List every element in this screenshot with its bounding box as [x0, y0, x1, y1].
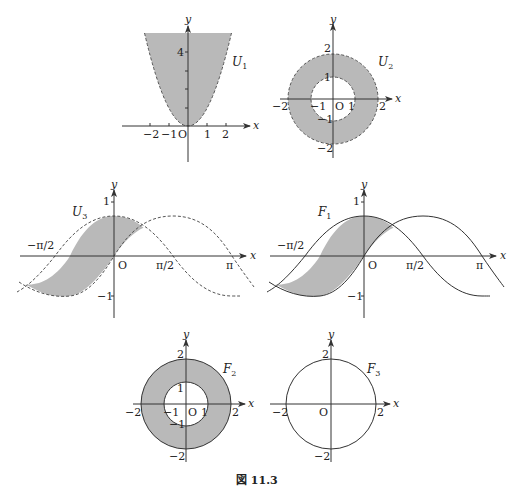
f3-name: F3	[366, 362, 380, 378]
u2-origin: O	[335, 100, 344, 113]
f1-origin: O	[368, 259, 377, 272]
f2-y-label: y	[182, 328, 190, 341]
f1-y-label: y	[360, 178, 368, 191]
u2-xtick-1: 1	[348, 100, 355, 113]
u2-ytick-2: 2	[324, 42, 331, 55]
u2-y-label: y	[329, 13, 337, 26]
u1-y-label: y	[184, 13, 192, 26]
u2-ytick-neg2: −2	[317, 142, 333, 155]
u2-ytick-neg1: −1	[317, 113, 333, 126]
f2-name: F2	[222, 362, 236, 378]
figure-11-3: x y −2 −1 O 1 2 4 U1 x y −2 −1 O 1 2 2 1…	[0, 0, 510, 491]
f3-xtick-2: 2	[377, 406, 384, 419]
u3-name: U3	[72, 205, 87, 221]
u2-name: U2	[378, 55, 393, 71]
f2-ytick-1: 1	[177, 382, 184, 395]
panel-f3: x y −2 O 2 2 −2 F3	[270, 328, 400, 463]
u1-xtick-1: 1	[204, 128, 211, 141]
u2-ytick-1: 1	[324, 71, 331, 84]
u3-origin: O	[118, 259, 127, 272]
u3-xtick-neg-pi-half: −π/2	[27, 239, 54, 252]
f2-xtick-neg2: −2	[125, 406, 141, 419]
f2-ytick-neg1: −1	[169, 418, 185, 431]
u3-ytick-neg1: −1	[97, 290, 113, 303]
u1-xtick-neg2: −2	[143, 128, 159, 141]
u3-y-label: y	[110, 178, 118, 191]
u3-xtick-pi-half: π/2	[156, 259, 174, 272]
f3-xtick-neg2: −2	[272, 406, 288, 419]
f2-ytick-2: 2	[177, 348, 184, 361]
f3-origin: O	[319, 406, 328, 419]
figure-caption: 図 11.3	[236, 473, 278, 487]
f3-ytick-2: 2	[322, 348, 329, 361]
f2-xtick-1: 1	[201, 406, 208, 419]
f3-x-label: x	[393, 397, 400, 410]
u3-xtick-pi: π	[226, 259, 233, 272]
f3-ytick-neg2: −2	[314, 450, 330, 463]
u1-xtick-2: 2	[222, 128, 229, 141]
panel-f1: x y −π/2 O π/2 π 1 −1 F1	[267, 178, 507, 318]
u1-ytick-4: 4	[177, 46, 184, 59]
f3-y-label: y	[327, 328, 335, 341]
panel-f2: x y −2 −1 O 1 2 2 1 −1 −2 F2	[125, 328, 255, 463]
u3-x-label: x	[250, 249, 257, 262]
f1-x-label: x	[500, 249, 507, 262]
f1-ytick-1: 1	[353, 195, 360, 208]
u1-name: U1	[232, 55, 247, 71]
f1-xtick-pi-half: π/2	[406, 259, 424, 272]
panel-u1: x y −2 −1 O 1 2 4 U1	[122, 13, 260, 162]
f2-x-label: x	[248, 397, 255, 410]
f1-ytick-neg1: −1	[347, 290, 363, 303]
f1-name: F1	[317, 205, 331, 221]
f2-ytick-neg2: −2	[169, 450, 185, 463]
u1-origin: O	[178, 128, 187, 141]
f2-origin: O	[188, 406, 197, 419]
u2-xtick-neg1: −1	[310, 100, 326, 113]
panel-u3: x y −π/2 O π/2 π 1 −1 U3	[17, 178, 257, 318]
u2-x-label: x	[395, 92, 402, 105]
u2-xtick-2: 2	[379, 100, 386, 113]
f2-xtick-2: 2	[232, 406, 239, 419]
u1-xtick-neg1: −1	[161, 128, 177, 141]
panel-u2: x y −2 −1 O 1 2 2 1 −1 −2 U2	[272, 13, 402, 158]
f1-xtick-neg-pi-half: −π/2	[277, 239, 304, 252]
u2-xtick-neg2: −2	[272, 100, 288, 113]
u1-x-label: x	[253, 119, 260, 132]
f1-xtick-pi: π	[476, 259, 483, 272]
u3-ytick-1: 1	[103, 195, 110, 208]
